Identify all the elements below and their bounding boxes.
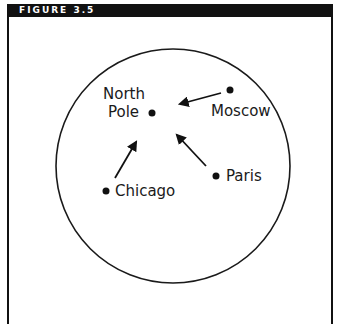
chicago-dot: [103, 188, 110, 195]
globe-circle: [56, 49, 290, 283]
paris-arrow: [177, 135, 206, 166]
north-pole-label-line1: North: [103, 85, 145, 103]
paris-dot: [213, 173, 220, 180]
north-pole-label-line2: Pole: [108, 103, 139, 121]
paris-label: Paris: [226, 167, 262, 185]
moscow-dot: [227, 87, 234, 94]
moscow-label: Moscow: [211, 102, 271, 120]
chicago-label: Chicago: [115, 182, 175, 200]
north-pole-dot: [149, 110, 156, 117]
chicago-arrow: [115, 142, 136, 178]
